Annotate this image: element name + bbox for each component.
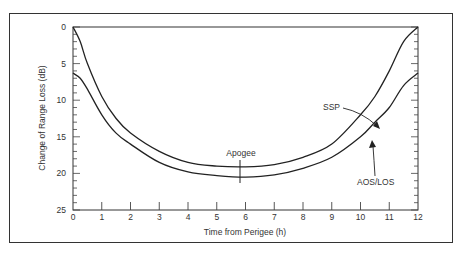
x-axis-title: Time from Perigee (h) [204, 227, 287, 237]
y-axis-title: Change of Range Loss (dB) [37, 65, 47, 171]
x-tick-11: 11 [385, 212, 394, 222]
y-tick-labels: 0 5 10 15 20 25 [57, 22, 67, 215]
x-tick-4: 4 [186, 212, 191, 222]
x-tick-7: 7 [272, 212, 277, 222]
x-axis-ticks [102, 202, 390, 210]
y-tick-20: 20 [57, 168, 67, 178]
x-tick-5: 5 [214, 212, 219, 222]
range-loss-chart: 0 5 10 15 20 25 0 1 2 3 4 5 6 7 8 9 10 1… [0, 0, 459, 253]
y-tick-5: 5 [61, 59, 66, 69]
aos-los-arrowhead-icon [369, 140, 376, 148]
x-tick-8: 8 [301, 212, 306, 222]
ssp-label: SSP [323, 102, 340, 112]
x-tick-6: 6 [243, 212, 248, 222]
ssp-arrow-icon [343, 108, 377, 126]
y-tick-25: 25 [57, 205, 67, 215]
y-tick-15: 15 [57, 132, 67, 142]
y-tick-10: 10 [57, 95, 67, 105]
aos-los-curve [73, 73, 418, 177]
y-axis-left-ticks [73, 27, 80, 210]
x-tick-labels: 0 1 2 3 4 5 6 7 8 9 10 11 12 [71, 212, 423, 222]
x-tick-1: 1 [99, 212, 104, 222]
x-tick-2: 2 [128, 212, 133, 222]
ssp-curve [73, 27, 418, 167]
x-tick-10: 10 [356, 212, 366, 222]
aos-los-label: AOS/LOS [357, 177, 395, 187]
y-tick-0: 0 [61, 22, 66, 32]
apogee-label: Apogee [226, 148, 256, 158]
figure-caption-clipped [9, 247, 455, 253]
x-tick-3: 3 [157, 212, 162, 222]
aos-los-arrow-icon [373, 146, 375, 176]
y-axis-right-ticks [411, 27, 418, 210]
x-tick-0: 0 [71, 212, 76, 222]
x-tick-9: 9 [329, 212, 334, 222]
x-tick-12: 12 [413, 212, 423, 222]
